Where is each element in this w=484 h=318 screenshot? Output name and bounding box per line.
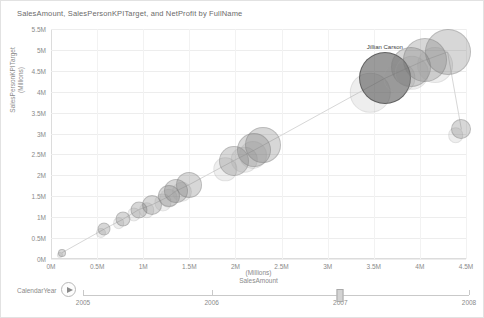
gridline xyxy=(51,259,466,260)
play-triangle xyxy=(67,287,73,293)
play-icon[interactable] xyxy=(61,282,76,297)
y-axis-tick-label: 2M xyxy=(37,172,46,179)
timeline-tick-label[interactable]: 2005 xyxy=(76,299,90,306)
y-axis-title-line1: SalesPersonKPITarget xyxy=(9,35,17,125)
chart-title: SalesAmount, SalesPersonKPITarget, and N… xyxy=(17,9,242,18)
bubble-point[interactable] xyxy=(425,29,471,75)
timeline-tick xyxy=(469,290,470,295)
bubble-point[interactable] xyxy=(176,172,202,198)
y-axis-tick-label: 4.5M xyxy=(32,67,46,74)
y-axis-tick-label: 5M xyxy=(37,46,46,53)
bubble-point[interactable] xyxy=(98,222,111,235)
bubble-point[interactable] xyxy=(58,249,66,257)
y-axis-tick-label: 0M xyxy=(37,256,46,263)
y-axis-tick-label: 0.5M xyxy=(32,235,46,242)
bubble-point[interactable] xyxy=(451,119,471,139)
timeline-tick xyxy=(83,290,84,295)
timeline-tick-label[interactable]: 2008 xyxy=(462,299,476,306)
timeline-tick-label[interactable]: 2006 xyxy=(204,299,218,306)
bubble-chart-visual: SalesAmount, SalesPersonKPITarget, and N… xyxy=(0,0,484,318)
play-axis[interactable]: CalendarYear 2005200620072008 xyxy=(17,282,469,308)
y-axis-tick-label: 3.5M xyxy=(32,109,46,116)
y-axis-tick-label: 1M xyxy=(37,214,46,221)
y-axis-tick-label: 2.5M xyxy=(32,151,46,158)
y-axis-title: SalesPersonKPITarget (Millions) xyxy=(9,35,25,125)
y-axis-tick-label: 4M xyxy=(37,88,46,95)
y-axis-title-line2: (Millions) xyxy=(17,35,25,125)
y-axis-tick-label: 1.5M xyxy=(32,193,46,200)
timeline-track[interactable]: 2005200620072008 xyxy=(83,295,469,296)
bubble-point[interactable] xyxy=(245,127,281,163)
bubble-data-label: Jillian Carson xyxy=(367,44,403,50)
play-axis-label: CalendarYear xyxy=(17,287,57,294)
timeline-handle[interactable] xyxy=(337,289,344,302)
y-axis-tick-label: 3M xyxy=(37,130,46,137)
timeline-tick xyxy=(212,290,213,295)
plot-area[interactable]: 0M0.5M1M1.5M2M2.5M3M3.5M4M4.5M5M5.5M 0M0… xyxy=(51,29,466,259)
x-axis-title-line1: (Millions) xyxy=(51,269,466,277)
y-axis-tick-label: 5.5M xyxy=(32,26,46,33)
